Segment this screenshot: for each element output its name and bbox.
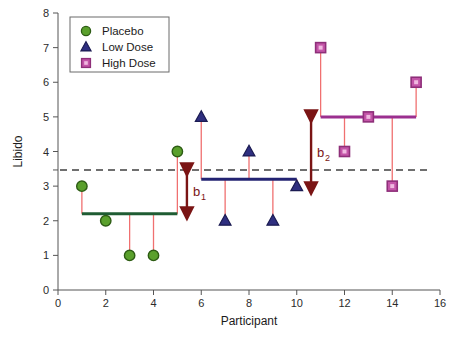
annotation-label-subscript: 1 bbox=[201, 192, 206, 202]
data-point-high-dose-inner bbox=[390, 184, 394, 188]
y-axis-title: Libido bbox=[11, 135, 25, 167]
data-point-placebo[interactable] bbox=[124, 250, 134, 260]
x-tick-label: 2 bbox=[103, 297, 109, 309]
data-point-low-dose[interactable] bbox=[291, 180, 303, 191]
legend-marker-placebo bbox=[81, 26, 90, 35]
y-tick-label: 7 bbox=[43, 42, 49, 54]
legend-item-label: High Dose bbox=[102, 57, 156, 69]
x-tick-label: 6 bbox=[198, 297, 204, 309]
legend-item-label: Low Dose bbox=[102, 41, 153, 53]
y-tick-label: 0 bbox=[43, 284, 49, 296]
x-tick-label: 10 bbox=[291, 297, 303, 309]
data-point-high-dose-inner bbox=[414, 80, 418, 84]
data-point-placebo[interactable] bbox=[101, 216, 111, 226]
y-tick-label: 4 bbox=[43, 146, 49, 158]
data-point-placebo[interactable] bbox=[172, 146, 182, 156]
y-tick-label: 5 bbox=[43, 111, 49, 123]
legend-marker-high-dose-inner bbox=[84, 61, 88, 65]
libido-by-participant-chart: 0246810121416Participant012345678Libidob… bbox=[0, 0, 463, 338]
annotation-label: b bbox=[317, 145, 324, 160]
x-tick-label: 12 bbox=[338, 297, 350, 309]
y-tick-label: 3 bbox=[43, 180, 49, 192]
x-tick-label: 8 bbox=[246, 297, 252, 309]
data-point-high-dose-inner bbox=[319, 46, 323, 50]
y-tick-label: 1 bbox=[43, 249, 49, 261]
annotation-label: b bbox=[193, 184, 200, 199]
data-point-placebo[interactable] bbox=[148, 250, 158, 260]
data-point-low-dose[interactable] bbox=[267, 215, 279, 226]
annotation-label-subscript: 2 bbox=[325, 153, 330, 163]
x-tick-label: 4 bbox=[150, 297, 156, 309]
y-tick-label: 2 bbox=[43, 215, 49, 227]
x-tick-label: 14 bbox=[386, 297, 398, 309]
data-point-low-dose[interactable] bbox=[195, 111, 207, 122]
x-axis-title: Participant bbox=[221, 314, 278, 328]
data-point-high-dose-inner bbox=[366, 115, 370, 119]
data-point-placebo[interactable] bbox=[77, 181, 87, 191]
y-tick-label: 8 bbox=[43, 7, 49, 19]
y-tick-label: 6 bbox=[43, 76, 49, 88]
legend-item-label: Placebo bbox=[102, 25, 144, 37]
x-tick-label: 0 bbox=[55, 297, 61, 309]
data-point-high-dose-inner bbox=[343, 150, 347, 154]
x-tick-label: 16 bbox=[434, 297, 446, 309]
chart-container: 0246810121416Participant012345678Libidob… bbox=[0, 0, 463, 338]
data-point-low-dose[interactable] bbox=[219, 215, 231, 226]
data-point-low-dose[interactable] bbox=[243, 145, 255, 156]
